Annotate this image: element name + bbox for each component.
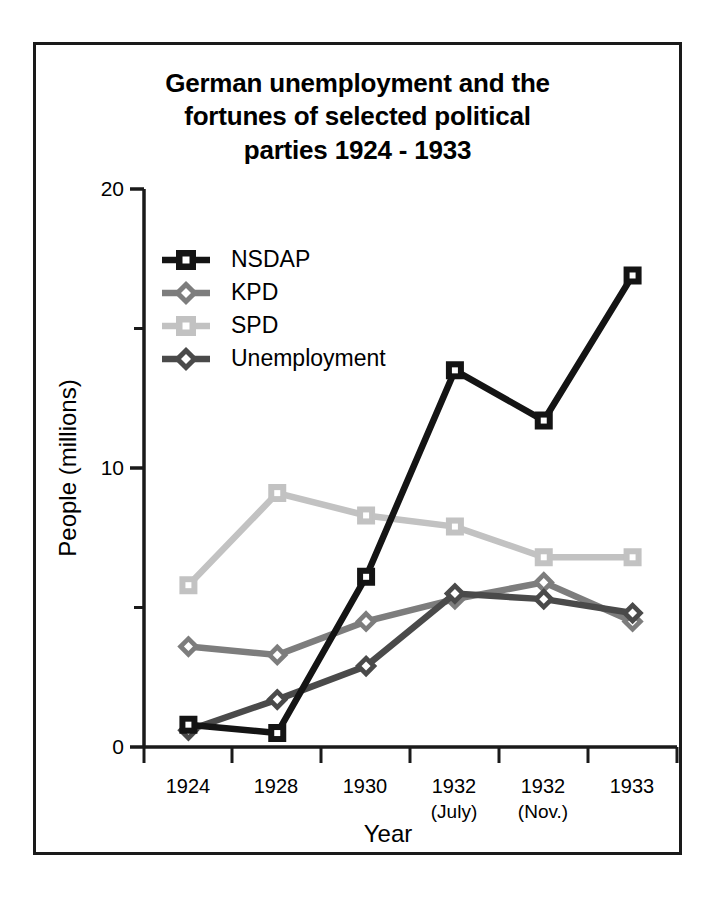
chart-svg: 20 10 0 People (millions) 1924 1928 1930…	[36, 45, 685, 858]
legend-item-spd[interactable]: SPD	[162, 312, 278, 338]
legend-item-nsdap[interactable]: NSDAP	[162, 246, 310, 272]
x-tick-label-1932-nov: 1932	[521, 775, 566, 797]
data-point-core-nsdap-0	[185, 722, 191, 728]
chart-legend: NSDAPKPDSPDUnemployment	[162, 246, 386, 371]
x-tick-label-1932-july: 1932	[432, 775, 477, 797]
data-point-core-spd-5	[630, 554, 636, 560]
x-tick-sublabel-july: (July)	[431, 801, 477, 822]
x-tick-label-1930: 1930	[343, 775, 388, 797]
x-tick-label-1928: 1928	[254, 775, 299, 797]
x-tick-label-1933: 1933	[610, 775, 655, 797]
series-line-kpd	[188, 582, 632, 655]
series-spd	[181, 486, 640, 593]
series-nsdap	[181, 268, 640, 741]
x-axis: 1924 1928 1930 1932 (July) 1932 (Nov.) 1…	[144, 747, 677, 847]
series-line-spd	[188, 493, 632, 585]
y-axis-title: People (millions)	[54, 379, 81, 556]
y-tick-label-10: 10	[101, 456, 124, 479]
legend-marker-core-spd	[183, 323, 190, 330]
series-kpd	[179, 573, 641, 664]
data-point-core-spd-3	[452, 524, 458, 530]
y-tick-label-20: 20	[101, 177, 124, 200]
x-tick-label-1924: 1924	[166, 775, 211, 797]
y-axis: 20 10 0 People (millions)	[54, 177, 144, 758]
series-line-unemployment	[188, 594, 632, 731]
legend-item-kpd[interactable]: KPD	[162, 279, 278, 305]
data-point-core-spd-4	[541, 554, 547, 560]
x-tick-sublabel-nov: (Nov.)	[518, 801, 568, 822]
legend-label-nsdap: NSDAP	[231, 246, 310, 272]
data-point-core-nsdap-1	[274, 730, 280, 736]
data-point-core-nsdap-2	[363, 574, 369, 580]
legend-item-unemployment[interactable]: Unemployment	[162, 345, 386, 371]
y-tick-label-0: 0	[112, 735, 124, 758]
data-point-core-spd-2	[363, 512, 369, 518]
data-point-core-spd-0	[185, 582, 191, 588]
data-point-core-nsdap-3	[452, 367, 458, 373]
legend-label-kpd: KPD	[231, 279, 278, 305]
data-point-core-nsdap-4	[541, 418, 547, 424]
legend-marker-core-nsdap	[183, 257, 190, 264]
data-point-core-spd-1	[274, 490, 280, 496]
x-axis-title: Year	[364, 820, 413, 847]
legend-label-spd: SPD	[231, 312, 278, 338]
plot-area: 20 10 0 People (millions) 1924 1928 1930…	[36, 45, 685, 858]
series-layer	[179, 268, 641, 741]
data-point-core-nsdap-5	[630, 272, 636, 278]
legend-label-unemployment: Unemployment	[231, 345, 386, 371]
chart-figure-frame: German unemployment and the fortunes of …	[33, 42, 682, 855]
